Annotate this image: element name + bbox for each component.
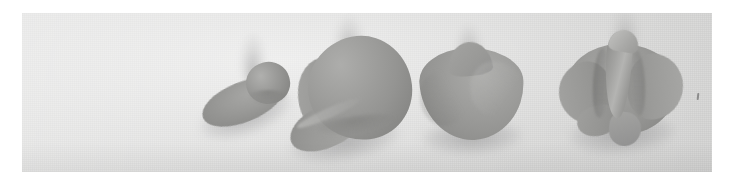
specimen-4 (553, 28, 693, 156)
photo-panel (22, 13, 712, 172)
specimen-3 (408, 40, 538, 150)
panel-bottom-shade (22, 142, 712, 172)
image-canvas (0, 0, 729, 186)
